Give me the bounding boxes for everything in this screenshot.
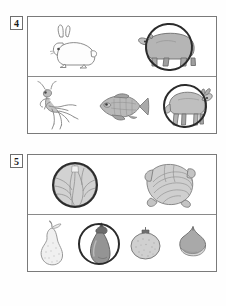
- answer-box-5: [27, 154, 217, 272]
- option-cabbage[interactable]: [32, 156, 118, 214]
- answer-box-4: [27, 16, 217, 134]
- question-number-4: 4: [10, 16, 23, 30]
- worksheet-page: 4: [0, 0, 226, 306]
- carp-fish-icon: [94, 89, 150, 123]
- option-mandarin-orange[interactable]: [122, 215, 169, 273]
- question-block-5: 5: [10, 154, 217, 272]
- question-block-4: 4: [10, 16, 217, 134]
- question-number-5: 5: [10, 154, 23, 168]
- cabbage-head-icon: [141, 162, 197, 208]
- option-bear[interactable]: [126, 18, 212, 76]
- option-chestnut[interactable]: [169, 215, 216, 273]
- praying-mantis-icon: [33, 81, 85, 131]
- option-pear[interactable]: [28, 215, 75, 273]
- option-row-5-1: [28, 155, 216, 214]
- option-cabbage-head[interactable]: [126, 156, 212, 214]
- option-row-4-2: [28, 76, 216, 135]
- cabbage-icon: [51, 162, 99, 208]
- option-row-5-2: [28, 214, 216, 273]
- option-carp-fish[interactable]: [91, 77, 153, 135]
- option-rabbit[interactable]: [32, 18, 118, 76]
- option-row-4-1: [28, 17, 216, 76]
- option-eggplant[interactable]: [75, 215, 122, 273]
- option-goat[interactable]: [154, 77, 216, 135]
- option-praying-mantis[interactable]: [28, 77, 90, 135]
- mandarin-orange-icon: [129, 226, 163, 262]
- chestnut-icon: [177, 225, 209, 263]
- goat-icon: [156, 84, 214, 128]
- eggplant-icon: [84, 221, 114, 267]
- bear-icon: [136, 25, 202, 69]
- pear-icon: [35, 220, 69, 268]
- rabbit-icon: [39, 23, 111, 71]
